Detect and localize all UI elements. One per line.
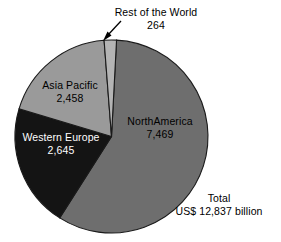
total-annotation-line1: Total <box>208 192 231 204</box>
slice-label-northamerica: NorthAmerica 7,469 <box>114 115 206 140</box>
slice-label-western-europe-name: Western Europe <box>22 131 99 143</box>
slice-label-rest-of-the-world: Rest of the World 264 <box>96 6 216 31</box>
slice-label-northamerica-name: NorthAmerica <box>127 115 192 127</box>
slice-label-rest-of-the-world-value: 264 <box>96 19 216 32</box>
slice-label-northamerica-value: 7,469 <box>114 128 206 141</box>
slice-label-asia-pacific: Asia Pacific 2,458 <box>26 79 114 104</box>
slice-label-asia-pacific-name: Asia Pacific <box>42 79 97 91</box>
slice-label-western-europe-value: 2,645 <box>4 144 118 157</box>
pie-chart-figure: Rest of the World 264 Asia Pacific 2,458… <box>0 0 281 242</box>
total-annotation-line2: US$ 12,837 billion <box>160 205 278 218</box>
total-annotation: Total US$ 12,837 billion <box>160 192 278 217</box>
slice-label-western-europe: Western Europe 2,645 <box>4 131 118 156</box>
slice-label-rest-of-the-world-name: Rest of the World <box>115 6 198 18</box>
slice-label-asia-pacific-value: 2,458 <box>26 92 114 105</box>
